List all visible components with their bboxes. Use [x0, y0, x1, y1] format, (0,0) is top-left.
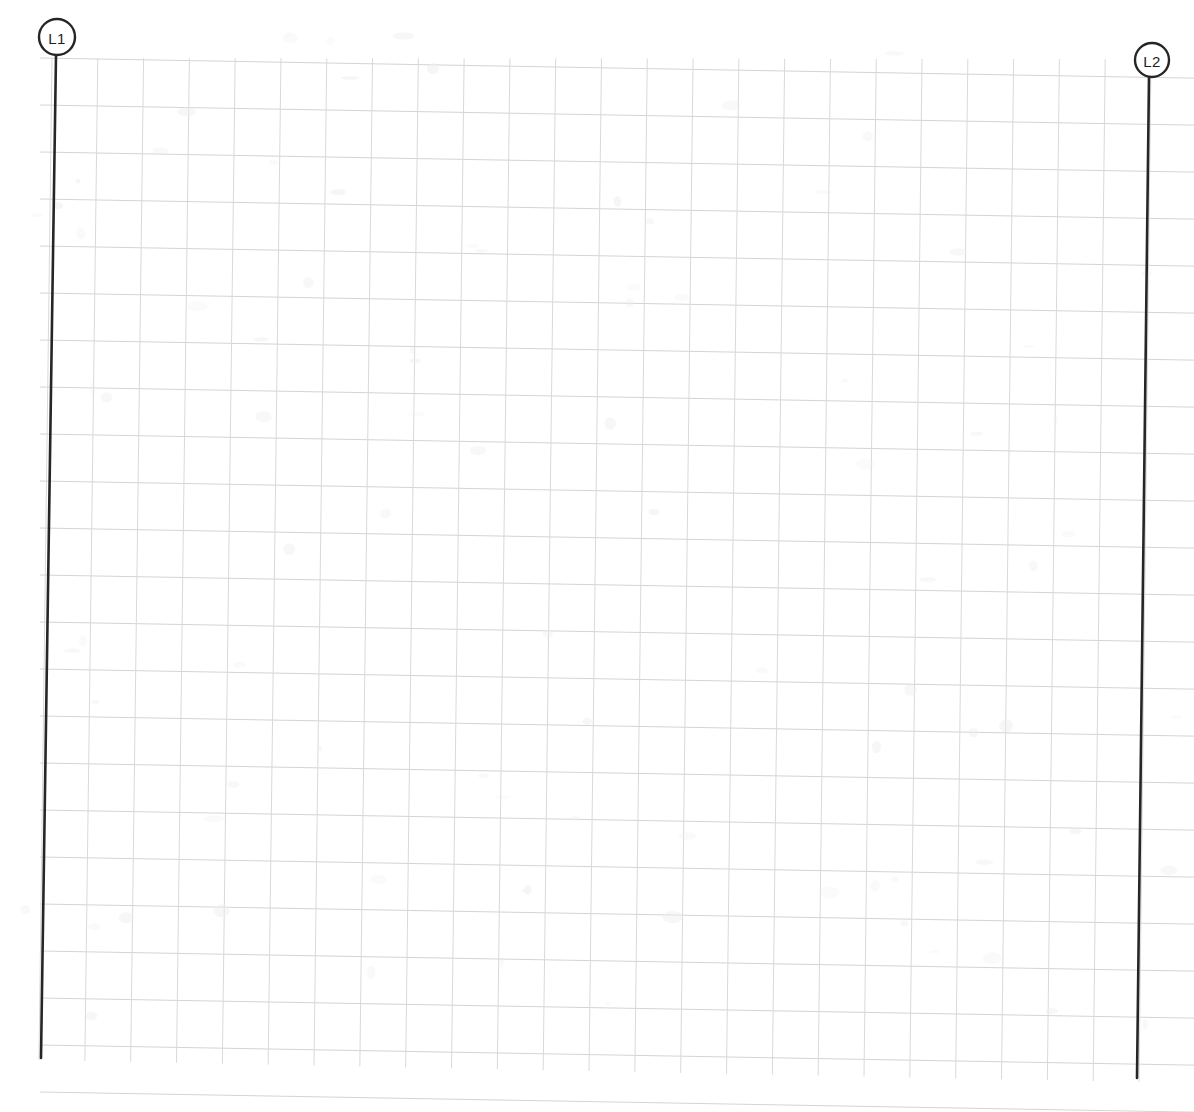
- paper-speck: [841, 379, 848, 383]
- paper-speck: [976, 860, 994, 865]
- paper-speck: [930, 950, 940, 953]
- paper-speck: [393, 33, 414, 40]
- paper-speck: [1022, 345, 1035, 348]
- paper-speck: [427, 63, 439, 74]
- paper-speck: [79, 635, 87, 647]
- paper-speck: [1069, 829, 1081, 834]
- paper-speck: [614, 196, 622, 207]
- paper-speck: [674, 294, 690, 301]
- paper-speck: [20, 905, 29, 914]
- paper-speck: [496, 795, 511, 799]
- paper-speck: [32, 213, 42, 217]
- paper-speck: [303, 277, 314, 289]
- paper-speck: [863, 131, 873, 141]
- paper-speck: [649, 509, 659, 515]
- paper-speck: [101, 393, 112, 403]
- paper-speck: [186, 301, 208, 311]
- paper-speck: [410, 347, 414, 354]
- paper-speck: [582, 718, 592, 725]
- sketch-drawing: L1L2: [0, 0, 1194, 1112]
- paper-speck: [679, 832, 697, 840]
- paper-speck: [341, 76, 359, 80]
- paper-speck: [872, 741, 881, 754]
- paper-speck: [326, 36, 334, 45]
- paper-speck: [1172, 715, 1182, 719]
- paper-speck: [283, 32, 298, 43]
- paper-speck: [408, 412, 424, 416]
- paper-speck: [605, 417, 616, 430]
- paper-speck: [478, 774, 490, 778]
- paper-speck: [409, 358, 420, 363]
- paper-speck: [885, 51, 904, 56]
- paper-speck: [904, 684, 916, 695]
- paper-speck: [645, 218, 654, 224]
- paper-speck: [500, 956, 504, 968]
- paper-speck: [367, 966, 376, 979]
- paper-speck: [76, 227, 85, 239]
- paper-speck: [1143, 1019, 1148, 1030]
- paper-speck: [820, 886, 839, 898]
- paper-speck: [605, 1001, 610, 1006]
- paper-speck: [318, 746, 323, 751]
- paper-speck: [269, 160, 279, 165]
- paper-speck: [569, 816, 581, 820]
- paper-speck: [177, 107, 196, 116]
- paper-speck: [233, 662, 246, 668]
- paper-speck: [722, 101, 740, 111]
- paper-speck: [90, 382, 95, 394]
- paper-speck: [370, 875, 386, 884]
- paper-speck: [663, 911, 683, 923]
- paper-speck: [1053, 415, 1058, 425]
- paper-speck: [153, 148, 168, 155]
- paper-speck: [1029, 560, 1037, 571]
- paper-speck: [283, 543, 295, 555]
- paper-speck: [119, 912, 134, 923]
- paper-speck: [475, 249, 489, 252]
- callout-label-l1: L1: [48, 30, 66, 47]
- paper-speck: [969, 728, 979, 737]
- paper-speck: [1046, 1008, 1058, 1014]
- paper-speck: [64, 648, 81, 652]
- paper-speck: [626, 283, 640, 290]
- sketch-canvas: L1L2: [0, 0, 1194, 1112]
- paper-speck: [815, 190, 832, 194]
- paper-speck: [470, 446, 487, 455]
- paper-speck: [203, 815, 225, 822]
- paper-speck: [919, 577, 936, 582]
- callout-l1[interactable]: L1: [39, 19, 75, 55]
- paper-speck: [856, 459, 875, 470]
- paper-speck: [213, 904, 230, 917]
- callout-l2[interactable]: L2: [1135, 43, 1169, 77]
- paper-speck: [983, 952, 1002, 964]
- paper-speck: [76, 179, 80, 184]
- paper-speck: [542, 630, 552, 638]
- paper-speck: [970, 431, 983, 435]
- paper-speck: [85, 1012, 97, 1020]
- paper-speck: [900, 920, 909, 926]
- paper-speck: [227, 781, 239, 788]
- paper-speck: [88, 923, 101, 930]
- paper-speck: [756, 667, 768, 673]
- callout-label-l2: L2: [1143, 53, 1161, 70]
- paper-speck: [1161, 866, 1178, 876]
- paper-speck: [330, 189, 346, 195]
- paper-speck: [870, 880, 879, 892]
- paper-speck: [891, 876, 899, 882]
- paper-speck: [380, 509, 391, 519]
- paper-speck: [949, 248, 967, 255]
- paper-speck: [91, 700, 99, 704]
- paper-speck: [999, 720, 1013, 733]
- paper-speck: [256, 411, 272, 422]
- paper-background: [0, 0, 1194, 1112]
- paper-speck: [626, 299, 634, 308]
- paper-speck: [467, 243, 479, 248]
- paper-speck: [1062, 531, 1076, 537]
- paper-speck: [253, 337, 269, 341]
- paper-speck: [521, 889, 528, 892]
